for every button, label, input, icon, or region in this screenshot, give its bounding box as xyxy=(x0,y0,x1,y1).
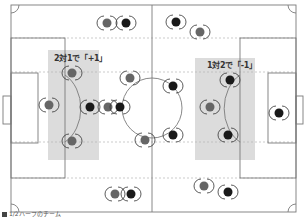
player-gray xyxy=(105,187,125,201)
player-black xyxy=(121,187,141,201)
player-black xyxy=(218,185,238,199)
caption-text: 1/2ハーフのチーム xyxy=(9,210,61,217)
right-zone-label: 1対2で「-1」 xyxy=(207,59,257,70)
player-gray xyxy=(194,179,214,193)
player-gray xyxy=(190,25,210,39)
caption: 1/2ハーフのチーム xyxy=(2,209,61,218)
player-black xyxy=(116,16,136,30)
legend-square-icon xyxy=(2,212,7,217)
left-zone-label: 2対1で「+1」 xyxy=(54,52,107,63)
player-black xyxy=(110,100,130,114)
player-gray xyxy=(120,71,140,85)
soccer-field-diagram xyxy=(0,0,305,219)
player-gray xyxy=(98,100,118,114)
player-black xyxy=(269,106,289,120)
player-black xyxy=(166,15,186,29)
player-gray xyxy=(97,16,117,30)
